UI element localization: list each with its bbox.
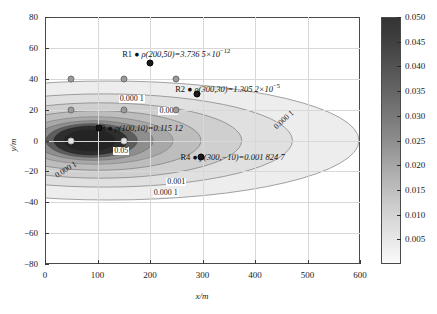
y-tick-label: −40 — [8, 197, 38, 207]
annotation-r3: R3 ● ρ(100,10)=0.115 12 — [95, 124, 182, 133]
colorbar-tick — [397, 239, 401, 240]
x-tick-label: 600 — [353, 270, 367, 280]
gridline-horizontal — [45, 233, 360, 234]
y-tick-label: 80 — [8, 12, 38, 22]
x-tick-label: 400 — [248, 270, 262, 280]
annotation-marker-r1 — [147, 60, 154, 67]
x-tick — [203, 260, 204, 264]
y-tick — [45, 79, 49, 80]
sensor-marker — [120, 75, 127, 82]
colorbar-tick-label: 0.010 — [405, 210, 425, 220]
colorbar-tick-label: 0.025 — [405, 136, 425, 146]
gridline-horizontal — [45, 202, 360, 203]
annotation-r1: R1 ● ρ(200,50)=3.736 5×10−12 — [122, 47, 230, 57]
x-tick-label: 0 — [43, 270, 48, 280]
x-tick — [150, 260, 151, 264]
colorbar-tick-label: 0.035 — [405, 86, 425, 96]
x-tick-label: 100 — [91, 270, 105, 280]
gridline-horizontal — [45, 171, 360, 172]
colorbar-tick — [397, 190, 401, 191]
contour-label: 0.05 — [113, 147, 129, 155]
annotation-r4: R4 ● ρ(300,−10)=0.001 824 7 — [180, 153, 284, 162]
annotation-r2: R2 ● ρ(300,30)=1.305 2×10−5 — [175, 83, 280, 93]
x-tick — [98, 260, 99, 264]
y-tick — [45, 202, 49, 203]
sensor-marker — [120, 137, 127, 144]
y-tick — [45, 17, 49, 18]
y-tick-label: −80 — [8, 259, 38, 269]
sensor-marker — [120, 106, 127, 113]
y-tick-label: −20 — [8, 166, 38, 176]
y-tick — [45, 233, 49, 234]
colorbar-tick — [397, 141, 401, 142]
x-tick-label: 500 — [301, 270, 315, 280]
colorbar-tick — [397, 17, 401, 18]
y-tick — [45, 171, 49, 172]
contour-plot-figure: 0100200300400500600806040200−20−40−60−80… — [0, 0, 437, 314]
colorbar-tick — [397, 116, 401, 117]
sensor-marker — [173, 106, 180, 113]
sensor-marker — [173, 75, 180, 82]
y-tick — [45, 110, 49, 111]
gridline-horizontal — [45, 110, 360, 111]
colorbar-tick-label: 0.050 — [405, 12, 425, 22]
x-tick — [360, 260, 361, 264]
contour-label: 0.001 — [166, 178, 186, 186]
colorbar-tick-label: 0.020 — [405, 160, 425, 170]
sensor-marker — [68, 75, 75, 82]
gridline-horizontal — [45, 79, 360, 80]
y-tick — [45, 48, 49, 49]
sensor-marker — [68, 106, 75, 113]
y-tick — [45, 141, 49, 142]
colorbar-tick — [397, 165, 401, 166]
y-tick-label: 40 — [8, 74, 38, 84]
x-tick — [308, 260, 309, 264]
x-axis-label: x/m — [196, 291, 209, 301]
colorbar-tick — [397, 215, 401, 216]
colorbar-tick-label: 0.005 — [405, 234, 425, 244]
contour-label: 0.000 1 — [153, 189, 179, 197]
y-tick — [45, 264, 49, 265]
sensor-marker — [68, 137, 75, 144]
x-tick-label: 300 — [196, 270, 210, 280]
colorbar-tick — [397, 66, 401, 67]
y-axis-label: y/m — [8, 139, 18, 152]
x-tick — [255, 260, 256, 264]
contour-label: 0.000 1 — [119, 95, 145, 103]
y-tick-label: 20 — [8, 105, 38, 115]
colorbar-tick-label: 0.040 — [405, 61, 425, 71]
x-tick-label: 200 — [143, 270, 157, 280]
colorbar-tick — [397, 91, 401, 92]
colorbar-tick-label: 0.030 — [405, 111, 425, 121]
colorbar-tick-label: 0.015 — [405, 185, 425, 195]
y-tick-label: −60 — [8, 228, 38, 238]
gridline-horizontal — [45, 141, 360, 142]
y-tick-label: 60 — [8, 43, 38, 53]
colorbar-tick-label: 0.045 — [405, 37, 425, 47]
colorbar-tick — [397, 42, 401, 43]
